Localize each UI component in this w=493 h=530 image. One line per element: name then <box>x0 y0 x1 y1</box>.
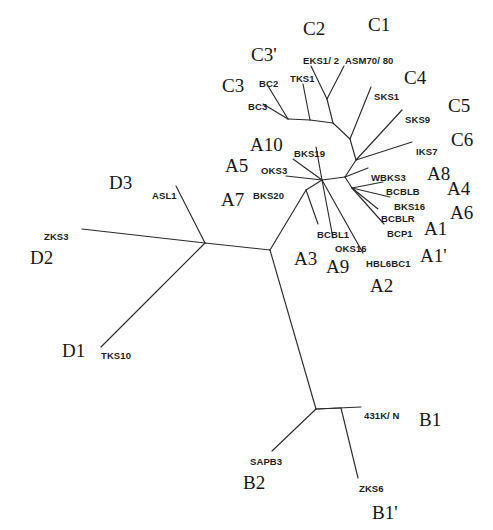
clade-a9: A9 <box>326 256 349 278</box>
edge-hub-d <box>205 243 270 250</box>
clade-d2: D2 <box>30 247 53 269</box>
leaf-zks3: ZKS3 <box>44 231 69 242</box>
leaf-bcblr: BCBLR <box>381 213 415 224</box>
edge-b-internal <box>316 408 341 409</box>
leaf-bc3: BC3 <box>248 101 267 112</box>
leaf-zks6: ZKS6 <box>359 483 384 494</box>
edge-d-zks3 <box>82 229 205 243</box>
clade-a4: A4 <box>447 178 470 200</box>
edge-b-sapb3 <box>272 409 316 451</box>
clade-c1: C1 <box>368 14 390 36</box>
edge-n1-n2 <box>322 177 345 180</box>
edge-a-n1 <box>306 180 322 190</box>
edge-cnode-c3 <box>310 120 333 123</box>
edge-c3-n <box>288 119 310 120</box>
clade-c3: C3 <box>222 75 244 97</box>
edge-n2-n3 <box>345 177 352 188</box>
clade-b2: B2 <box>243 472 265 494</box>
clade-c3p: C3' <box>251 44 277 66</box>
edge-a-bcbl1 <box>306 190 318 224</box>
clade-b1p: B1' <box>372 502 398 524</box>
leaf-hbl6bc1: HBL6BC1 <box>366 258 411 269</box>
clade-a1: A1 <box>424 218 447 240</box>
leaf-eks12: EKS1/ 2 <box>303 55 339 66</box>
clade-c4: C4 <box>404 67 426 89</box>
clade-c5: C5 <box>448 95 470 117</box>
edge-c12-node <box>327 99 333 123</box>
clade-a2: A2 <box>370 275 393 297</box>
edge-hub-b <box>270 250 316 409</box>
leaf-iks7: IKS7 <box>416 146 438 157</box>
leaf-bcblb: BCBLB <box>386 186 420 197</box>
leaf-asl1: ASL1 <box>152 190 177 201</box>
leaf-bcbl1: BCBL1 <box>317 229 349 240</box>
clade-a1p: A1' <box>420 245 447 267</box>
clade-c6: C6 <box>451 129 473 151</box>
edge-d-tks10 <box>101 243 205 347</box>
leaf-bc2: BC2 <box>259 78 278 89</box>
edge-c3-tks1 <box>303 84 310 120</box>
leaf-oks3: OKS3 <box>261 165 287 176</box>
leaf-bks16: BKS16 <box>394 201 425 212</box>
edge-cnode-c12 <box>333 123 350 139</box>
edge-d-asl1 <box>176 186 205 243</box>
leaf-sks1: SKS1 <box>374 91 399 102</box>
edge-c-cnode <box>350 139 356 160</box>
edge-c3-bc2 <box>268 86 288 119</box>
edge-n3-bcp1 <box>352 188 384 224</box>
clade-c2: C2 <box>303 18 325 40</box>
phylogenetic-tree-figure: BC2BC3TKS1EKS1/ 2ASM70/ 80SKS1SKS9IKS7BK… <box>0 0 493 530</box>
clade-d3: D3 <box>109 172 132 194</box>
leaf-oks16: OKS16 <box>335 243 367 254</box>
leaf-wbks3: WBKS3 <box>371 172 406 183</box>
leaf-sks9: SKS9 <box>405 114 430 125</box>
clade-a3: A3 <box>294 248 317 270</box>
edge-cnode-sks1 <box>350 87 371 139</box>
clade-d1: D1 <box>62 340 85 362</box>
leaf-tks10: TKS10 <box>101 350 131 361</box>
leaf-sapb3: SAPB3 <box>250 456 282 467</box>
leaf-tks1: TKS1 <box>290 73 315 84</box>
clade-a5: A5 <box>225 155 248 177</box>
leaf-asm7080: ASM70/ 80 <box>345 55 393 66</box>
edge-c12-asm <box>327 66 344 99</box>
leaf-bks20: BKS20 <box>253 190 284 201</box>
leaf-bcp1: BCP1 <box>387 228 413 239</box>
leaf-bks19: BKS19 <box>294 148 325 159</box>
clade-a6: A6 <box>450 202 473 224</box>
edge-b-zks6 <box>341 408 358 478</box>
clade-b1: B1 <box>419 409 441 431</box>
leaf-431kn: 431K/ N <box>364 410 400 421</box>
clade-a10: A10 <box>250 134 283 156</box>
clade-a7: A7 <box>221 189 244 211</box>
